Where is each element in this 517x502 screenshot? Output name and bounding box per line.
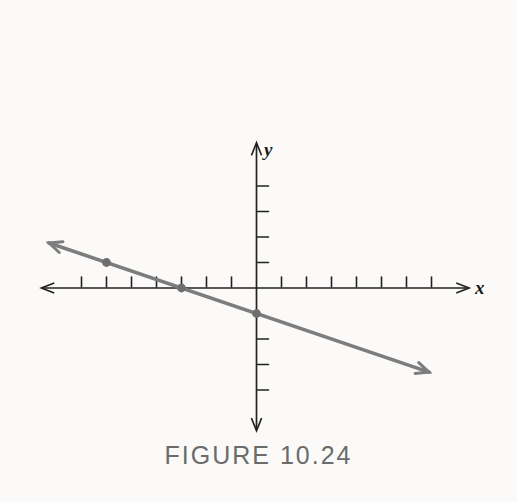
y-axis-label: y [262, 139, 273, 160]
point-marker [252, 309, 261, 318]
textbook-figure-page: x y FIGURE 10.24 [0, 0, 517, 502]
coordinate-plane-graph: x y [0, 0, 517, 502]
figure-caption: FIGURE 10.24 [0, 441, 517, 470]
point-marker [102, 258, 111, 267]
point-marker [177, 284, 186, 293]
x-axis-label: x [474, 277, 485, 298]
